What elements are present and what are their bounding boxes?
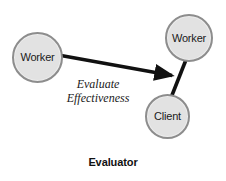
- edge-label-line2: Effectiveness: [52, 91, 144, 105]
- diagram-canvas: Worker Worker Client Evaluate Effectiven…: [0, 0, 226, 181]
- node-worker-left[interactable]: Worker: [12, 32, 63, 83]
- node-worker-right-label: Worker: [172, 33, 206, 44]
- connector-worker-client: [171, 59, 187, 100]
- node-client-label: Client: [154, 111, 181, 122]
- node-worker-right[interactable]: Worker: [165, 14, 213, 62]
- edge-label-line1: Evaluate: [52, 77, 144, 91]
- diagram-caption: Evaluator: [0, 156, 226, 168]
- connector-evaluate-arrow: [61, 56, 172, 76]
- node-worker-left-label: Worker: [20, 52, 54, 63]
- node-client[interactable]: Client: [145, 94, 190, 139]
- edge-label-evaluate-effectiveness: Evaluate Effectiveness: [52, 77, 144, 105]
